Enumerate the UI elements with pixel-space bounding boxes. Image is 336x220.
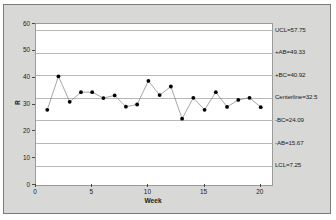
x-tick-mark-10: [147, 184, 148, 187]
data-point-week-20: [259, 105, 263, 109]
x-tick-mark-0: [35, 184, 36, 187]
data-point-week-11: [158, 93, 162, 97]
data-point-week-18: [236, 98, 240, 102]
limit-label-lcl: LCL=7.25: [275, 161, 301, 168]
series-line: [47, 76, 261, 118]
data-point-week-9: [135, 103, 139, 107]
y-tick-label-20: 20: [10, 127, 30, 134]
data-point-week-12: [169, 85, 173, 89]
y-tick-label-30: 30: [10, 100, 30, 107]
y-tick-label-40: 40: [10, 73, 30, 80]
data-point-week-8: [124, 105, 128, 109]
limit-label-minus_ab: -AB=15.67: [275, 139, 304, 146]
data-point-week-7: [113, 93, 117, 97]
y-tick-label-60: 60: [10, 20, 30, 27]
y-tick-mark-40: [32, 77, 35, 78]
y-tick-label-0: 0: [10, 181, 30, 188]
data-point-week-16: [214, 90, 218, 94]
limit-label-plus_bc: +BC=40.92: [275, 71, 305, 78]
data-point-week-19: [248, 96, 252, 100]
data-point-week-17: [225, 105, 229, 109]
x-tick-label-0: 0: [28, 188, 42, 195]
data-point-week-1: [45, 108, 49, 112]
data-point-week-14: [191, 96, 195, 100]
limit-label-plus_ab: +AB=49.33: [275, 48, 305, 55]
x-tick-label-20: 20: [253, 188, 267, 195]
y-tick-mark-30: [32, 104, 35, 105]
data-point-week-3: [68, 100, 72, 104]
x-tick-mark-20: [260, 184, 261, 187]
x-tick-mark-15: [204, 184, 205, 187]
data-point-week-10: [146, 79, 150, 83]
plot-area: [35, 23, 273, 186]
y-tick-mark-50: [32, 50, 35, 51]
y-tick-mark-60: [32, 23, 35, 24]
y-tick-mark-20: [32, 130, 35, 131]
y-tick-mark-10: [32, 157, 35, 158]
x-tick-mark-5: [91, 184, 92, 187]
x-tick-label-15: 15: [197, 188, 211, 195]
limit-label-centerline: Centerline=32.5: [275, 93, 317, 100]
data-point-week-5: [90, 90, 94, 94]
x-axis-title: Week: [123, 197, 183, 204]
limit-label-minus_bc: -BC=24.09: [275, 116, 304, 123]
y-tick-label-50: 50: [10, 46, 30, 53]
data-point-week-4: [79, 90, 83, 94]
y-tick-label-10: 10: [10, 154, 30, 161]
series-line-and-markers: [36, 24, 272, 185]
x-tick-label-5: 5: [84, 188, 98, 195]
data-point-week-6: [102, 96, 106, 100]
data-point-week-13: [180, 117, 184, 121]
chart-frame: R UCL=57.75+AB=49.33+BC=40.92Centerline=…: [3, 4, 331, 214]
limit-label-ucl: UCL=57.75: [275, 26, 306, 33]
data-point-week-2: [57, 74, 61, 78]
x-tick-label-10: 10: [140, 188, 154, 195]
data-point-week-15: [203, 108, 207, 112]
